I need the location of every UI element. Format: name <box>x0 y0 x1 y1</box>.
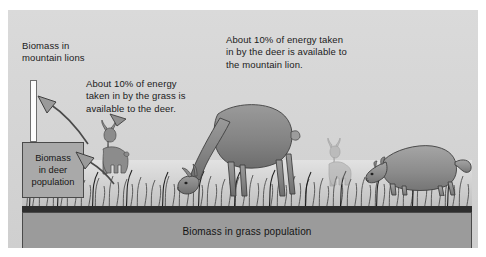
background-deer <box>316 136 356 192</box>
mountain-lion-prowling <box>360 134 472 200</box>
energy-pyramid-panel: Biomass in deer population Biomass in gr… <box>8 10 478 248</box>
callout-deer-to-lion: About 10% of energy taken in by the deer… <box>226 34 347 71</box>
mountain-lion-icon <box>360 134 472 196</box>
deer-icon <box>316 136 356 188</box>
diagram-canvas: Biomass in deer population Biomass in gr… <box>0 0 486 257</box>
label-biomass-mountain-lions: Biomass in mountain lions <box>22 40 85 65</box>
curved-arrow-icon <box>66 142 118 186</box>
biomass-box-grass-label: Biomass in grass population <box>182 226 311 237</box>
large-deer-grazing <box>176 88 301 204</box>
arrow-deer-to-lion <box>30 88 92 150</box>
deer-grazing-icon <box>176 88 301 200</box>
curved-arrow-icon <box>30 88 92 146</box>
arrow-grass-to-deer <box>66 142 118 190</box>
callout-grass-to-deer: About 10% of energy taken in by the gras… <box>86 78 186 115</box>
biomass-box-grass: Biomass in grass population <box>22 212 472 248</box>
